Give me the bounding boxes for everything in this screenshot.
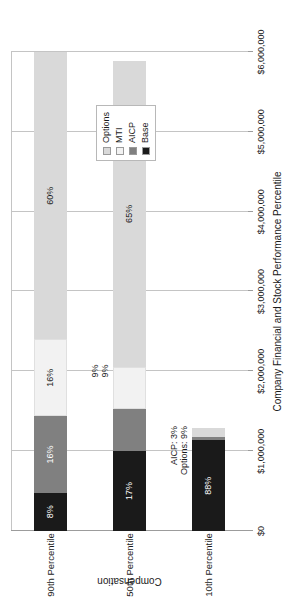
legend-item[interactable]: AICP <box>127 112 138 155</box>
tick-mark <box>248 450 253 451</box>
tick-mark <box>248 291 253 292</box>
tick-mark <box>248 211 253 212</box>
bar-segment-label: 60% <box>46 187 55 205</box>
tick-label: $3,000,000 <box>256 269 266 314</box>
bar-segment[interactable] <box>192 428 225 437</box>
tick-label: $5,000,000 <box>256 109 266 154</box>
legend-item[interactable]: MTI <box>114 112 125 155</box>
bar-segment[interactable]: 16% <box>34 339 67 416</box>
bar-segment[interactable]: 17% <box>113 451 146 531</box>
tick-mark <box>248 131 253 132</box>
legend-label: AICP <box>128 122 137 143</box>
bar-outside-label: Options: 9% <box>179 426 189 594</box>
bar-segment-label: 88% <box>204 477 213 495</box>
bar-segment-label: 16% <box>46 445 55 463</box>
legend-swatch-icon <box>116 147 124 155</box>
bar-segment[interactable]: 60% <box>34 52 67 339</box>
bar-outside-label: AICP: 3% <box>169 426 179 594</box>
tick-label: $2,000,000 <box>256 349 266 394</box>
tick-label: $0 <box>256 526 266 536</box>
chart-legend: OptionsMTIAICPBase <box>96 105 156 161</box>
legend-swatch-icon <box>142 147 150 155</box>
tick-label: $6,000,000 <box>256 29 266 74</box>
tick-mark <box>248 530 253 531</box>
legend-swatch-icon <box>129 147 137 155</box>
legend-label: Options <box>102 112 111 143</box>
legend-item[interactable]: Base <box>140 112 151 155</box>
category-axis-title: Company Financial and Stock Performance … <box>272 52 283 531</box>
tick-label: $1,000,000 <box>256 429 266 474</box>
bar-segment[interactable]: 16% <box>34 416 67 493</box>
bar-row: 17%65%9%9% <box>113 0 146 594</box>
bar-segment[interactable]: 88% <box>192 440 225 531</box>
tick-mark <box>248 51 253 52</box>
tick-mark <box>248 370 253 371</box>
bar-outside-label: 9% <box>100 365 110 594</box>
legend-item[interactable]: Options <box>101 112 112 155</box>
tick-label: $4,000,000 <box>256 189 266 234</box>
bar-segment-label: 17% <box>125 482 134 500</box>
bar-segment-label: 65% <box>125 205 134 223</box>
bar-segment[interactable] <box>192 437 225 440</box>
legend-swatch-icon <box>103 147 111 155</box>
legend-label: Base <box>141 122 150 143</box>
bar-row: 88%AICP: 3%Options: 9% <box>192 0 225 594</box>
legend-label: MTI <box>115 128 124 144</box>
bar-segment[interactable] <box>113 367 146 409</box>
bar-segment[interactable]: 8% <box>34 493 67 531</box>
plot-top-border <box>11 52 12 531</box>
bar-segment-label: 8% <box>46 505 55 518</box>
bar-segment-label: 16% <box>46 369 55 387</box>
bar-outside-label: 9% <box>90 365 100 594</box>
bar-row: 8%16%16%60% <box>34 0 67 594</box>
value-axis-title: Compensation <box>11 574 248 588</box>
bar-segment[interactable] <box>113 409 146 451</box>
